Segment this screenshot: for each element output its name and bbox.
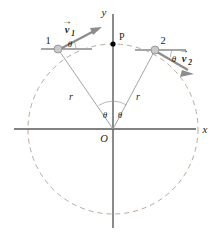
velocity-2-label-group: → v 2: [179, 44, 192, 67]
velocity-2-symbol: v: [182, 53, 187, 64]
angle-arc-origin-left: [99, 101, 114, 106]
particle-2-angle-label: θ: [172, 54, 177, 64]
particle-2-number-label: 2: [160, 35, 165, 46]
particle-1-number-label: 1: [45, 35, 50, 46]
y-axis-label: y: [101, 6, 107, 18]
velocity-2-subscript: 2: [187, 58, 192, 67]
velocity-vector-2-arrowhead: [180, 70, 194, 77]
velocity-1-label-group: → v 1: [62, 15, 75, 38]
origin-angle-label-left: θ: [103, 110, 108, 120]
particle-1-angle-label: θ: [68, 39, 73, 49]
particle-marker-1: [54, 45, 62, 53]
particle-marker-2: [151, 46, 159, 54]
point-p-marker: [110, 41, 115, 46]
velocity-1-subscript: 1: [71, 29, 75, 38]
angle-arc-origin-right: [113, 101, 127, 105]
x-axis-label: x: [202, 123, 208, 135]
origin-angle-label-right: θ: [118, 110, 123, 120]
velocity-vector-1-arrowhead: [90, 27, 102, 35]
circular-motion-figure: y x O P 1 2 θ θ r r θ θ → v 1 → v 2: [0, 0, 217, 239]
origin-label: O: [100, 133, 108, 144]
point-p-label: P: [119, 31, 125, 42]
radius-label-1: r: [69, 91, 73, 102]
physics-diagram: y x O P 1 2 θ θ r r θ θ → v 1 → v 2: [0, 0, 217, 239]
radius-label-2: r: [136, 91, 140, 102]
velocity-1-symbol: v: [65, 24, 70, 35]
